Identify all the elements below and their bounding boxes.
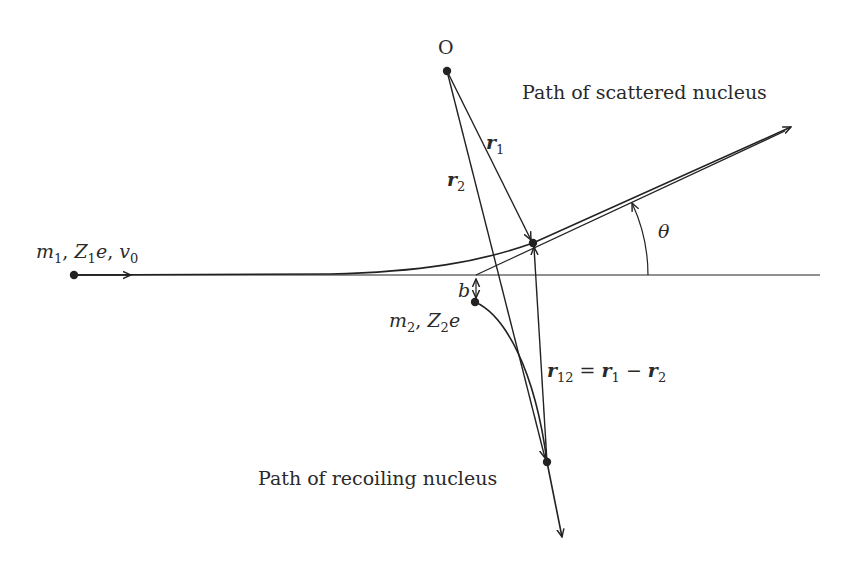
r2-vector — [447, 71, 545, 458]
projectile-start-point — [70, 271, 78, 279]
b-label: b — [458, 279, 470, 301]
scattered-path-label: Path of scattered nucleus — [522, 81, 767, 103]
theta-label: θ — [658, 220, 670, 242]
scattering-diagram: O Path of scattered nucleus Path of reco… — [0, 0, 849, 568]
outgoing-asymptote — [476, 131, 785, 275]
r12-equation-label: r12 = r1 − r2 — [547, 359, 666, 385]
r1-label: r1 — [486, 131, 504, 157]
theta-arc — [632, 203, 648, 275]
r12-vector — [534, 247, 547, 462]
recoil-nucleus-point — [543, 458, 551, 466]
scattered-nucleus-point — [529, 239, 537, 247]
r2-label: r2 — [447, 168, 465, 194]
scattered-path-curve — [74, 127, 791, 275]
recoil-path-curve — [475, 302, 562, 537]
projectile-label: m1, Z1e, v0 — [36, 240, 138, 266]
r1-vector — [447, 71, 531, 240]
origin-label: O — [438, 36, 454, 58]
diagram-svg: O Path of scattered nucleus Path of reco… — [0, 0, 849, 568]
target-nucleus-point — [471, 298, 479, 306]
target-label: m2, Z2e — [389, 309, 460, 335]
origin-point — [443, 67, 451, 75]
recoil-path-label: Path of recoiling nucleus — [258, 467, 497, 489]
